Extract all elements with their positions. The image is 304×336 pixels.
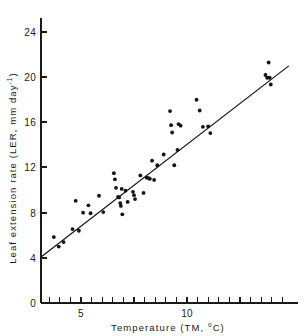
y-tick-label-20: 20	[24, 72, 36, 83]
data-point	[206, 124, 210, 128]
data-point	[198, 109, 202, 113]
data-point	[74, 199, 78, 203]
x-axis-ticks	[49, 297, 282, 303]
y-axis-title: Leaf extension rate (LER, mm day-1)	[6, 72, 18, 264]
data-point	[113, 177, 117, 181]
data-point	[152, 178, 156, 182]
data-point	[176, 148, 180, 152]
data-point	[170, 131, 174, 135]
data-point	[87, 203, 91, 207]
data-point	[101, 210, 105, 214]
regression-line	[41, 66, 289, 257]
y-tick-label-8: 8	[30, 208, 36, 219]
data-point	[195, 98, 199, 102]
data-point	[269, 83, 273, 87]
data-point	[77, 229, 81, 233]
data-point	[57, 245, 61, 249]
data-point	[267, 61, 271, 65]
data-point	[81, 211, 85, 215]
data-point	[142, 191, 146, 195]
x-axis-title-close: C)	[213, 322, 225, 333]
data-point	[138, 174, 142, 178]
data-point	[120, 212, 124, 216]
x-tick-label-5: 5	[78, 308, 84, 319]
data-point	[117, 196, 121, 200]
y-tick-label-24: 24	[24, 27, 36, 38]
data-point	[52, 235, 56, 239]
x-axis-title: Temperature (TM, oC)	[111, 321, 225, 333]
y-tick-label-12: 12	[24, 162, 36, 173]
data-point	[208, 131, 212, 135]
data-point	[169, 123, 173, 127]
data-point	[155, 163, 159, 167]
y-tick-label-16: 16	[24, 117, 36, 128]
data-point	[71, 227, 75, 231]
y-axis-title-exponent: -1	[6, 76, 13, 84]
plot-canvas: 24 20 16 12 8 4 0 5 10 Temperature (TM, …	[0, 0, 304, 336]
y-axis-ticks	[41, 32, 47, 303]
x-axis-title-main: Temperature (TM,	[111, 322, 208, 333]
data-point	[201, 125, 205, 129]
data-point	[120, 187, 124, 191]
data-point	[131, 190, 135, 194]
data-point	[162, 153, 166, 157]
data-point	[179, 124, 183, 128]
data-point	[124, 189, 128, 193]
data-point	[168, 109, 172, 113]
scatter-plot-figure: 24 20 16 12 8 4 0 5 10 Temperature (TM, …	[0, 0, 304, 336]
y-axis-title-close: )	[7, 72, 18, 76]
data-point	[148, 177, 152, 181]
data-point	[112, 171, 116, 175]
data-point	[172, 163, 176, 167]
data-point	[126, 200, 130, 204]
data-points-group	[52, 61, 273, 249]
data-point	[97, 194, 101, 198]
data-point	[62, 240, 66, 244]
data-point	[268, 76, 272, 80]
data-point	[133, 197, 137, 201]
data-point	[150, 159, 154, 163]
y-tick-label-0: 0	[30, 298, 36, 309]
data-point	[89, 211, 93, 215]
data-point	[114, 186, 118, 190]
data-point	[132, 193, 136, 197]
x-tick-label-10: 10	[181, 308, 193, 319]
y-axis-title-main: Leaf extension rate (LER, mm day	[7, 84, 18, 263]
data-point	[119, 204, 123, 208]
y-tick-label-4: 4	[30, 253, 36, 264]
